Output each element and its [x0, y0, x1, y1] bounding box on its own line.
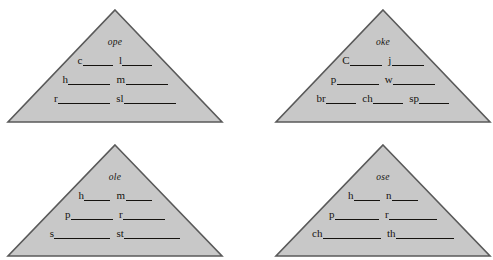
blank-line[interactable]: [393, 75, 435, 85]
word-prompt[interactable]: h: [62, 74, 110, 85]
blank-line[interactable]: [68, 75, 110, 85]
blank-line[interactable]: [126, 191, 152, 201]
onset-text: ch: [312, 228, 323, 239]
word-prompt[interactable]: br: [317, 93, 357, 104]
word-prompt[interactable]: m: [116, 74, 167, 85]
word-row: p r: [62, 209, 168, 220]
word-prompt[interactable]: c: [78, 55, 113, 66]
blank-line[interactable]: [396, 229, 454, 239]
word-prompt[interactable]: p: [329, 209, 379, 220]
word-prompt[interactable]: s: [50, 228, 111, 239]
blank-line[interactable]: [350, 56, 382, 66]
blank-line[interactable]: [123, 210, 165, 220]
rime-label: ose: [376, 173, 390, 183]
blank-line[interactable]: [126, 75, 168, 85]
word-prompt[interactable]: ch: [362, 93, 403, 104]
blank-line[interactable]: [124, 229, 180, 239]
word-prompt[interactable]: p: [65, 209, 113, 220]
blank-line[interactable]: [326, 94, 356, 104]
word-prompt[interactable]: ch: [312, 228, 381, 239]
word-row: br ch sp: [314, 93, 453, 104]
word-pyramid-ole: ole h m p r s st: [6, 143, 224, 258]
word-prompt[interactable]: m: [116, 190, 151, 201]
word-row: r sl: [51, 93, 179, 104]
word-prompt[interactable]: j: [388, 55, 424, 66]
word-pyramid-worksheet: ope c l h m r sl oke C j: [0, 0, 493, 260]
pyramid-content: ole h m p r s st: [6, 143, 224, 258]
blank-line[interactable]: [83, 56, 113, 66]
blank-line[interactable]: [54, 229, 110, 239]
onset-text: br: [317, 93, 327, 104]
onset-text: th: [387, 228, 396, 239]
word-prompt[interactable]: st: [116, 228, 180, 239]
word-prompt[interactable]: w: [385, 74, 435, 85]
onset-text: m: [116, 190, 125, 201]
blank-line[interactable]: [84, 191, 110, 201]
word-prompt[interactable]: C: [342, 55, 382, 66]
word-row: ch th: [309, 228, 457, 239]
pyramid-content: oke C j p w br ch sp: [274, 8, 492, 124]
blank-line[interactable]: [392, 56, 424, 66]
word-prompt[interactable]: p: [331, 74, 379, 85]
pyramid-content: ope c l h m r sl: [6, 8, 224, 124]
blank-line[interactable]: [392, 191, 418, 201]
word-prompt[interactable]: l: [119, 55, 153, 66]
blank-line[interactable]: [389, 210, 437, 220]
blank-line[interactable]: [323, 229, 381, 239]
word-row: h n: [345, 190, 421, 201]
blank-line[interactable]: [419, 94, 449, 104]
word-row: p r: [326, 209, 440, 220]
onset-text: sl: [116, 93, 124, 104]
onset-text: st: [116, 228, 124, 239]
word-row: C j: [339, 55, 426, 66]
blank-line[interactable]: [122, 56, 152, 66]
word-prompt[interactable]: r: [385, 209, 437, 220]
word-row: p w: [328, 74, 438, 85]
word-row: h m: [75, 190, 154, 201]
onset-text: ch: [362, 93, 373, 104]
word-prompt[interactable]: h: [78, 190, 110, 201]
word-row: c l: [75, 55, 156, 66]
onset-text: C: [342, 55, 350, 66]
pyramid-content: ose h n p r ch th: [274, 143, 492, 258]
word-prompt[interactable]: h: [348, 190, 380, 201]
blank-line[interactable]: [335, 210, 379, 220]
blank-line[interactable]: [337, 75, 379, 85]
word-pyramid-ope: ope c l h m r sl: [6, 8, 224, 124]
blank-line[interactable]: [71, 210, 113, 220]
word-pyramid-ose: ose h n p r ch th: [274, 143, 492, 258]
word-prompt[interactable]: sl: [116, 93, 176, 104]
word-prompt[interactable]: sp: [409, 93, 449, 104]
word-prompt[interactable]: r: [54, 93, 110, 104]
word-prompt[interactable]: th: [387, 228, 454, 239]
onset-text: w: [385, 74, 393, 85]
word-row: h m: [59, 74, 170, 85]
rime-label: ole: [109, 173, 122, 183]
onset-text: sp: [409, 93, 419, 104]
blank-line[interactable]: [373, 94, 403, 104]
onset-text: m: [116, 74, 125, 85]
blank-line[interactable]: [58, 94, 110, 104]
rime-label: oke: [376, 38, 390, 48]
blank-line[interactable]: [124, 94, 176, 104]
word-row: s st: [47, 228, 184, 239]
word-pyramid-oke: oke C j p w br ch sp: [274, 8, 492, 124]
rime-label: ope: [108, 38, 123, 48]
blank-line[interactable]: [354, 191, 380, 201]
word-prompt[interactable]: n: [386, 190, 418, 201]
word-prompt[interactable]: r: [119, 209, 165, 220]
